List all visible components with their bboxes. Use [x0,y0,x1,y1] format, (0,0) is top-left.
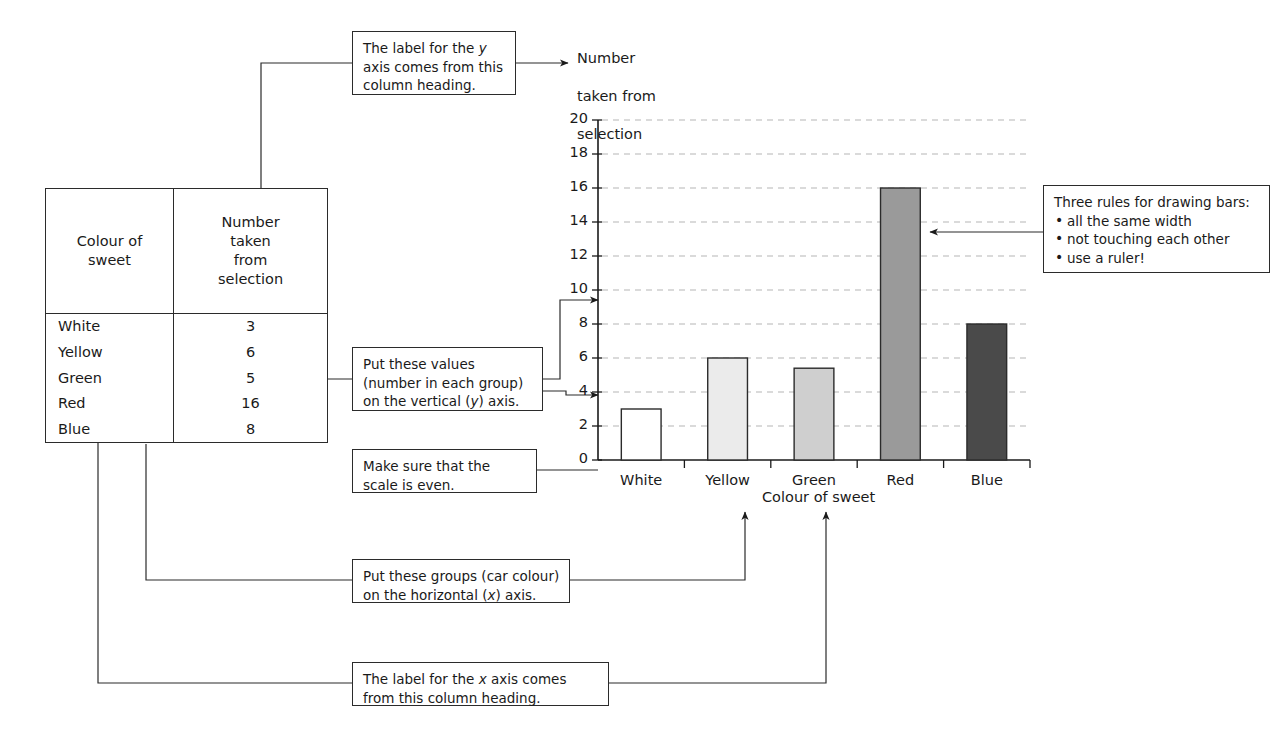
callout-line: on the vertical (y) axis. [363,392,533,411]
table-row: Yellow 6 [46,340,327,366]
cell-colour: White [46,314,174,340]
bar-white [621,409,661,460]
bar-yellow [708,358,748,460]
y-title-line2: taken from [577,88,656,104]
rule-item: not touching each other [1054,230,1260,249]
callout-line: The label for the x axis comes [363,670,599,689]
cell-count: 5 [174,365,328,391]
cell-colour: Yellow [46,340,174,366]
callout-line: Put these groups (car colour) [363,567,560,586]
callout-y-axis-label: The label for the y axis comes from this… [352,31,516,95]
x-category-label: White [596,472,686,488]
x-category-label: Red [855,472,945,488]
cell-count: 6 [174,340,328,366]
callout-line: scale is even. [363,476,527,495]
table-header-row: Colour of sweet Number taken from select… [46,189,327,314]
cell-count: 3 [174,314,328,340]
cell-colour: Green [46,365,174,391]
callout-line: Put these values [363,355,533,374]
rules-title: Three rules for drawing bars: [1054,193,1260,212]
sweets-table: Colour of sweet Number taken from select… [46,189,327,442]
rule-item: use a ruler! [1054,249,1260,268]
header-colour-line1: Colour of [77,233,143,249]
callout-three-rules: Three rules for drawing bars: all the sa… [1043,185,1270,273]
y-tick-label: 14 [560,212,588,228]
figure-canvas: Colour of sweet Number taken from select… [0,0,1280,735]
header-number-line4: selection [218,271,283,287]
callout-put-groups: Put these groups (car colour) on the hor… [352,559,570,603]
x-category-label: Yellow [683,472,773,488]
callout-line: axis comes from this [363,58,506,77]
callout-line: column heading. [363,76,506,95]
cell-count: 8 [174,416,328,442]
header-colour-line2: sweet [88,252,131,268]
x-category-label: Green [769,472,859,488]
bar-red [881,188,921,460]
callout-line: on the horizontal (x) axis. [363,586,560,605]
cell-colour: Blue [46,416,174,442]
y-tick-label: 8 [560,314,588,330]
y-tick-label: 16 [560,178,588,194]
cell-colour: Red [46,391,174,417]
callout-line: The label for the y [363,39,506,58]
data-table: Colour of sweet Number taken from select… [45,188,328,443]
header-number-line2: taken [230,233,271,249]
rule-item: all the same width [1054,212,1260,231]
y-title-line1: Number [577,50,635,66]
header-number-line1: Number [221,214,279,230]
callout-line: Make sure that the [363,457,527,476]
y-tick-label: 0 [560,450,588,466]
cell-count: 16 [174,391,328,417]
y-tick-label: 6 [560,348,588,364]
table-head: Colour of sweet Number taken from select… [46,189,327,314]
callout-line: from this column heading. [363,689,599,708]
y-tick-label: 12 [560,246,588,262]
table-row: Blue 8 [46,416,327,442]
callout-put-values: Put these values (number in each group) … [352,347,543,411]
table-row: Green 5 [46,365,327,391]
y-title-line3: selection [577,126,642,142]
chart-y-axis-title: Number taken from selection [577,30,656,144]
callout-x-axis-label: The label for the x axis comes from this… [352,662,609,706]
table-body: White 3 Yellow 6 Green 5 Red 16 Blue 8 [46,314,327,443]
chart-x-axis-title: Colour of sweet [762,489,875,505]
column-header-colour: Colour of sweet [46,189,174,314]
column-header-number: Number taken from selection [174,189,328,314]
callout-line: (number in each group) [363,374,533,393]
y-tick-label: 20 [560,110,588,126]
y-tick-label: 18 [560,144,588,160]
bar-green [794,368,834,460]
y-tick-label: 4 [560,382,588,398]
x-category-label: Blue [942,472,1032,488]
y-tick-label: 10 [560,280,588,296]
table-row: Red 16 [46,391,327,417]
bar-blue [967,324,1007,460]
table-row: White 3 [46,314,327,340]
callout-even-scale: Make sure that the scale is even. [352,449,537,493]
header-number-line3: from [234,252,268,268]
rules-list: all the same width not touching each oth… [1054,212,1260,268]
y-tick-label: 2 [560,416,588,432]
